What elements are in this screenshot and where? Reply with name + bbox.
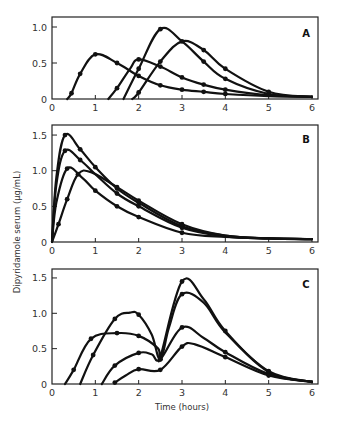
data-point [223,355,228,360]
data-point [158,59,163,64]
data-point [158,357,163,362]
data-point [180,279,185,284]
x-tick-label: 0 [49,245,55,256]
x-tick-label: 0 [49,102,55,113]
data-point [201,59,206,64]
panel-c: 00.51.01.50123456C [32,269,318,398]
data-point [115,331,120,336]
x-tick-label: 2 [136,245,142,256]
data-point [223,76,228,81]
series-line-A1 [67,54,312,99]
pharmacokinetic-chart: 00.51.00123456A00.51.01.50123456B00.51.0… [0,0,339,428]
data-point [93,52,98,57]
panel-a: 00.51.00123456A [32,17,318,113]
data-point [78,147,83,152]
data-point [93,188,98,193]
data-point [136,350,141,355]
data-point [223,92,228,97]
y-tick-label: 0.5 [32,58,47,69]
x-tick-label: 2 [136,102,142,113]
data-point [266,373,271,378]
data-point [180,230,185,235]
data-point [65,166,70,171]
series-line-A4 [132,41,312,99]
data-point [180,325,185,330]
data-point [115,204,120,209]
x-tick-label: 0 [49,387,55,398]
data-point [223,350,228,355]
data-point [136,66,141,71]
data-point [112,380,117,385]
y-tick-label: 1.0 [32,308,47,319]
data-point [76,172,81,177]
series-line-C1 [65,278,312,384]
y-tick-label: 0 [41,237,47,248]
y-tick-label: 1.5 [32,272,47,283]
x-tick-label: 3 [179,102,185,113]
x-tick-label: 4 [222,387,228,398]
data-point [201,89,206,94]
plot-frame [52,17,318,99]
data-point [78,158,83,163]
y-axis-label: Dipyridamole serum (µg/mL) [12,171,22,293]
data-point [112,363,117,368]
x-axis-label: Time (hours) [154,402,209,412]
x-tick-label: 2 [136,387,142,398]
data-point [180,39,185,44]
data-point [158,83,163,88]
y-tick-label: 0 [41,94,47,105]
data-point [180,292,185,297]
data-point [180,344,185,349]
data-point [63,133,68,138]
data-point [115,86,120,91]
data-point [56,222,61,227]
data-point [201,82,206,87]
data-point [223,87,228,92]
data-point [115,185,120,190]
x-tick-label: 6 [309,245,315,256]
y-tick-label: 0.5 [32,201,47,212]
data-point [158,27,163,32]
data-point [180,75,185,80]
x-tick-label: 6 [309,387,315,398]
data-point [93,165,98,170]
data-point [180,87,185,92]
x-tick-label: 4 [222,245,228,256]
data-point [115,191,120,196]
data-point [136,312,141,317]
x-tick-label: 3 [179,245,185,256]
series-line-C2 [80,293,312,384]
data-point [136,215,141,220]
panel-label: A [302,28,310,39]
x-tick-label: 6 [309,102,315,113]
data-point [63,148,68,153]
x-tick-label: 5 [266,387,272,398]
data-point [115,61,120,66]
panel-label: B [302,134,310,145]
data-point [65,197,70,202]
x-tick-label: 5 [266,245,272,256]
data-point [136,198,141,203]
data-point [266,89,271,94]
data-point [91,353,96,358]
data-point [78,71,83,76]
data-point [136,57,141,62]
x-tick-label: 1 [92,387,98,398]
panel-b: 00.51.01.50123456B [32,125,318,256]
data-point [136,367,141,372]
data-point [89,336,94,341]
y-tick-label: 0.5 [32,343,47,354]
panel-label: C [302,279,309,290]
x-tick-label: 4 [222,102,228,113]
y-tick-label: 1.0 [32,165,47,176]
data-point [112,317,117,322]
data-point [136,334,141,339]
data-point [136,90,141,95]
data-point [69,91,74,96]
data-point [180,222,185,227]
y-tick-label: 1.5 [32,130,47,141]
x-tick-label: 3 [179,387,185,398]
x-tick-label: 1 [92,102,98,113]
data-point [223,66,228,71]
y-tick-label: 0 [41,379,47,390]
